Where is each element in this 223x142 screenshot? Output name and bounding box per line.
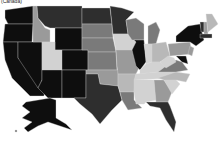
us-choropleth-map	[0, 0, 223, 142]
state-FL[interactable]	[146, 102, 176, 132]
state-WY[interactable]	[55, 28, 82, 50]
state-AR[interactable]	[118, 74, 136, 92]
state-AK[interactable]	[22, 98, 72, 132]
state-WA[interactable]	[5, 6, 33, 24]
state-MS[interactable]	[134, 80, 144, 104]
state-OR[interactable]	[3, 24, 33, 42]
state-HI[interactable]	[15, 130, 17, 132]
state-MA[interactable]	[200, 34, 212, 38]
state-SD[interactable]	[82, 24, 113, 38]
state-NM[interactable]	[62, 70, 86, 98]
state-CO[interactable]	[62, 50, 88, 70]
state-NE[interactable]	[82, 38, 116, 52]
state-ME[interactable]	[206, 14, 218, 32]
state-MT[interactable]	[37, 6, 82, 28]
state-KS[interactable]	[88, 52, 117, 70]
state-MI[interactable]	[148, 22, 160, 44]
state-ND[interactable]	[82, 8, 112, 24]
